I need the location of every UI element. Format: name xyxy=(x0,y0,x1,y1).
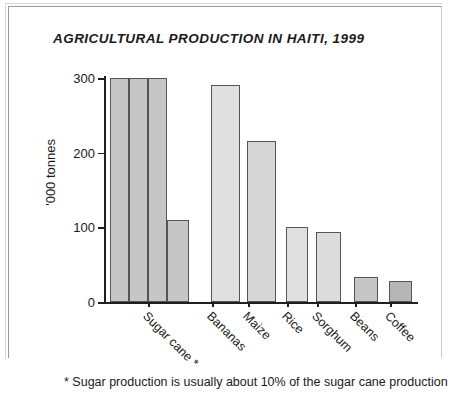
x-axis-label: Beans xyxy=(347,309,382,344)
x-axis-label: Coffee xyxy=(382,309,418,345)
x-tick-mark xyxy=(317,302,319,307)
bar xyxy=(211,85,240,302)
y-tick-mark xyxy=(98,153,105,155)
bar xyxy=(286,227,308,302)
x-axis-line xyxy=(104,302,418,304)
x-tick-mark xyxy=(248,302,250,307)
y-tick-label: 0 xyxy=(88,295,95,310)
chart-figure: AGRICULTURAL PRODUCTION IN HAITI, 1999 '… xyxy=(0,0,462,402)
x-axis-label: Sugar cane * xyxy=(140,309,201,370)
y-tick-label: 100 xyxy=(73,220,95,235)
bar xyxy=(316,232,341,302)
x-axis-label: Sorghum xyxy=(309,309,355,355)
plot-area: 3002001000 Sugar cane *BananasMaizeRiceS… xyxy=(104,78,420,302)
bar xyxy=(247,141,276,302)
x-tick-mark xyxy=(148,302,150,307)
y-axis-label: '000 tonnes xyxy=(43,139,58,206)
bar xyxy=(354,277,378,302)
x-axis-label: Maize xyxy=(240,309,273,342)
bar xyxy=(110,78,129,302)
chart-title: AGRICULTURAL PRODUCTION IN HAITI, 1999 xyxy=(53,31,364,46)
bar xyxy=(389,281,412,302)
y-tick-mark xyxy=(98,227,105,229)
bar xyxy=(129,78,148,302)
y-tick-label: 200 xyxy=(73,145,95,160)
y-tick-mark xyxy=(98,302,105,304)
x-tick-mark xyxy=(390,302,392,307)
bar xyxy=(148,78,167,302)
x-tick-mark xyxy=(212,302,214,307)
y-axis-line xyxy=(104,76,106,304)
y-tick-label: 300 xyxy=(73,71,95,86)
x-axis-label: Rice xyxy=(279,309,307,337)
x-tick-mark xyxy=(355,302,357,307)
bar xyxy=(167,220,189,302)
chart-footnote: * Sugar production is usually about 10% … xyxy=(64,375,448,389)
x-tick-mark xyxy=(287,302,289,307)
y-tick-mark xyxy=(98,78,105,80)
